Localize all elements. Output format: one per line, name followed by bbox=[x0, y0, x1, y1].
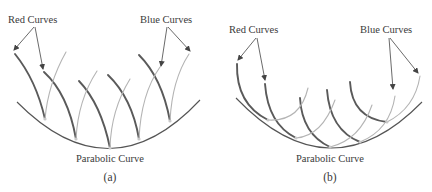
parabolic-curve-label-a: Parabolic Curve bbox=[76, 153, 144, 164]
blue-curves-a bbox=[45, 52, 189, 148]
tangent-points-b bbox=[267, 119, 389, 149]
red-curves-label-b: Red Curves bbox=[229, 24, 278, 35]
diagram-canvas: Red Curves Blue Curves Parabolic Curve (… bbox=[0, 0, 432, 192]
caption-a: (a) bbox=[104, 171, 117, 184]
red-curves-a bbox=[15, 54, 170, 148]
panel-b: Red Curves Blue Curves Parabolic Curve (… bbox=[229, 24, 422, 184]
panel-a: Red Curves Blue Curves Parabolic Curve (… bbox=[8, 14, 200, 184]
red-curves-b bbox=[237, 64, 387, 147]
label-arrows-a bbox=[14, 27, 190, 69]
parabolic-curve-label-b: Parabolic Curve bbox=[296, 153, 364, 164]
red-curves-label-a: Red Curves bbox=[8, 14, 57, 25]
label-arrows-b bbox=[238, 38, 418, 89]
blue-curves-label-a: Blue Curves bbox=[140, 14, 192, 25]
caption-b: (b) bbox=[323, 171, 337, 184]
blue-curves-label-b: Blue Curves bbox=[360, 24, 412, 35]
blue-curves-b bbox=[268, 76, 420, 147]
